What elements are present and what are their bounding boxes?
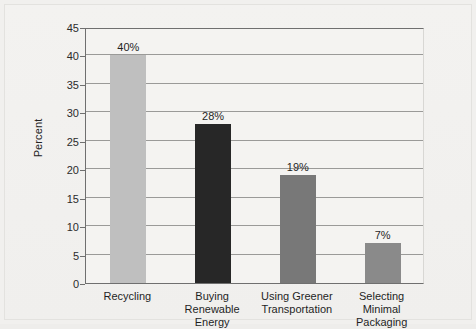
y-axis-ticks: 051015202530354045 xyxy=(52,28,79,284)
bar xyxy=(195,124,231,283)
y-axis-tick-label: 0 xyxy=(55,279,79,290)
bar xyxy=(280,175,316,283)
bar xyxy=(110,55,146,283)
y-axis-tick-label: 30 xyxy=(55,108,79,119)
y-axis-tick-label: 15 xyxy=(55,194,79,205)
y-axis-title: Percent xyxy=(32,98,44,178)
bar-value-label: 40% xyxy=(98,41,158,53)
x-axis-tick-label: Recycling xyxy=(85,290,170,303)
x-axis-tick-label: Selecting Minimal Packaging xyxy=(339,290,424,329)
plot-area: 40%28%19%7% xyxy=(85,28,424,284)
bar xyxy=(365,243,401,283)
y-axis-tick-label: 25 xyxy=(55,137,79,148)
y-axis-tick-label: 45 xyxy=(55,23,79,34)
bar-value-label: 19% xyxy=(268,161,328,173)
bar-value-label: 7% xyxy=(353,229,413,241)
y-axis-tick-label: 35 xyxy=(55,80,79,91)
y-axis-tick-label: 5 xyxy=(55,251,79,262)
y-axis-tick-mark xyxy=(80,284,85,285)
y-axis-tick-label: 40 xyxy=(55,51,79,62)
y-axis-tick-label: 10 xyxy=(55,222,79,233)
x-axis-tick-label: Using Greener Transportation xyxy=(255,290,340,316)
bar-value-label: 28% xyxy=(183,110,243,122)
x-axis-tick-label: Buying Renewable Energy xyxy=(170,290,255,329)
y-axis-tick-label: 20 xyxy=(55,165,79,176)
